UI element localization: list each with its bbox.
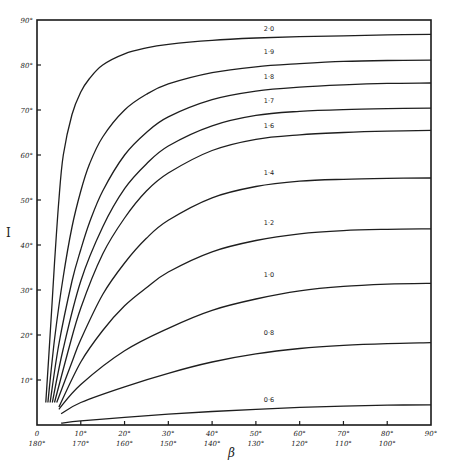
x-tick-label-supplement: 120° — [291, 440, 308, 448]
x-tick-label-supplement: 100° — [379, 440, 396, 448]
curve-line — [52, 108, 431, 402]
x-tick-label: 30° — [162, 430, 174, 438]
x-tick-label: 60° — [293, 430, 305, 438]
curve-label: 1·9 — [264, 48, 274, 56]
plot-frame — [37, 20, 431, 425]
x-tick-label-supplement: 150° — [160, 440, 177, 448]
x-tick-label: 10° — [75, 430, 87, 438]
x-tick-label-supplement: 160° — [116, 440, 133, 448]
curve-label: 2·0 — [264, 25, 274, 33]
curve-label: 1·0 — [264, 271, 274, 279]
curve-line — [48, 60, 431, 402]
x-tick-label: 70° — [337, 430, 349, 438]
plot-border — [37, 20, 431, 425]
curve-label: 1·2 — [264, 219, 274, 227]
y-axis-title: I — [6, 226, 11, 240]
x-tick-label-supplement: 140° — [204, 440, 221, 448]
x-tick-label: 0 — [35, 430, 40, 438]
y-tick-label: 20° — [20, 332, 33, 340]
curve-line — [59, 229, 431, 407]
curve-label: 1·6 — [264, 122, 274, 130]
y-tick-label: 40° — [20, 242, 33, 250]
x-tick-label-supplement: 180° — [29, 440, 46, 448]
curve-label: 1·4 — [264, 169, 274, 177]
y-tick-label: 90° — [21, 17, 33, 25]
x-tick-label-supplement: 170° — [72, 440, 89, 448]
x-tick-label: 80° — [381, 430, 393, 438]
x-tick-label-supplement: 130° — [247, 440, 264, 448]
curve-label: 1·7 — [264, 97, 274, 105]
curve-line — [61, 343, 431, 414]
x-tick-label: 90° — [425, 430, 437, 438]
y-tick-label: 80° — [21, 62, 33, 70]
curve-label: 1·8 — [264, 73, 274, 81]
curve-line — [61, 405, 431, 423]
curve-line — [55, 130, 432, 402]
x-tick-label: 40° — [205, 430, 218, 438]
curve-label: 0·8 — [264, 329, 274, 337]
chart: 0180°10°170°20°160°30°150°40°140°50°130°… — [0, 0, 455, 467]
curve-line — [57, 178, 431, 403]
curve-line — [46, 34, 431, 402]
curve-group — [46, 34, 431, 423]
y-tick-label: 30° — [21, 287, 33, 295]
curve-label: 0·6 — [264, 396, 274, 404]
x-tick-label: 20° — [117, 430, 130, 438]
y-tick-label: 10° — [21, 377, 33, 385]
y-tick-label: 60° — [21, 152, 33, 160]
y-tick-label: 50° — [21, 197, 33, 205]
x-tick-label-supplement: 110° — [335, 440, 352, 448]
x-tick-label: 50° — [250, 430, 262, 438]
x-axis-title: β — [227, 446, 235, 460]
y-tick-label: 70° — [21, 107, 33, 115]
curve-labels: 2·01·91·81·71·61·41·21·00·80·6 — [264, 25, 274, 403]
